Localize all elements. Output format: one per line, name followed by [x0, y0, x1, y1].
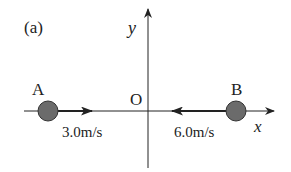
- panel-label: (a): [24, 18, 43, 37]
- x-axis-label: x: [253, 117, 262, 136]
- origin-label: O: [130, 90, 142, 109]
- velocity-label-b: 6.0m/s: [174, 124, 215, 140]
- collision-diagram: (a) y x O A B 3.0m/s 6.0m/s: [0, 0, 291, 172]
- y-axis-label: y: [126, 18, 136, 38]
- ball-b: [226, 101, 246, 121]
- ball-a: [38, 101, 58, 121]
- ball-a-label: A: [32, 80, 45, 99]
- ball-b-label: B: [231, 80, 242, 99]
- velocity-label-a: 3.0m/s: [62, 124, 103, 140]
